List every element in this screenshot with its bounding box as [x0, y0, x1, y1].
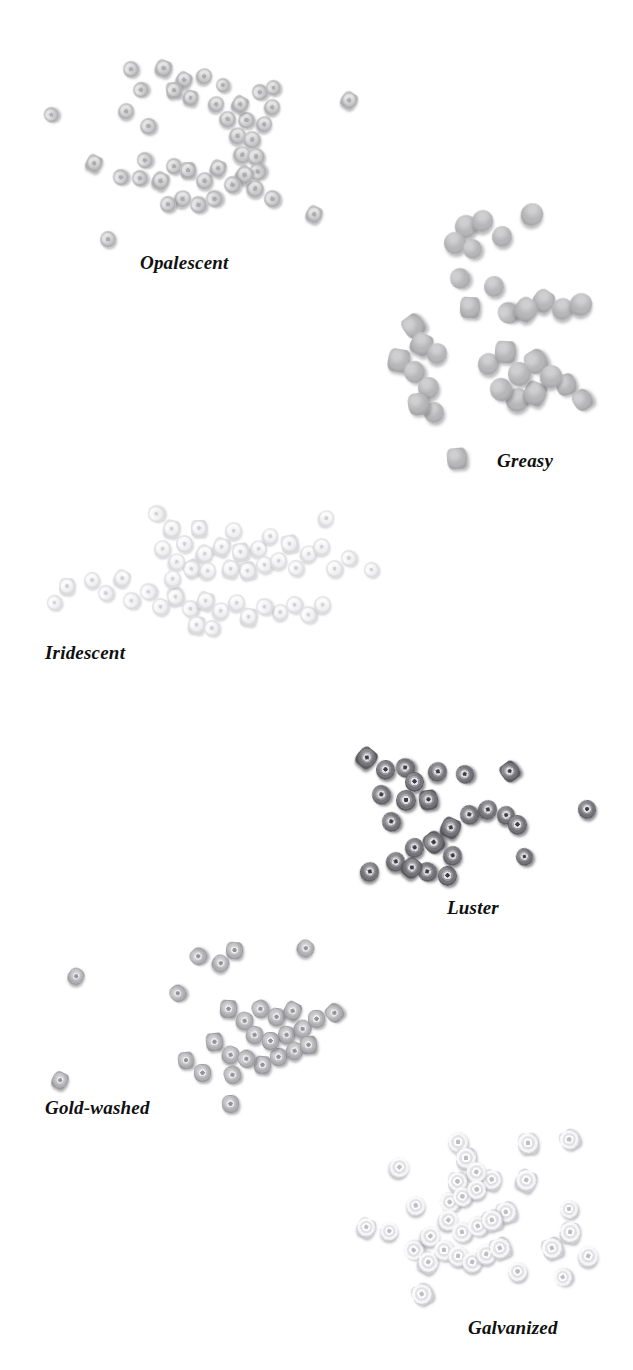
bead — [550, 1264, 576, 1290]
bead — [459, 296, 480, 318]
bead — [403, 1193, 428, 1219]
bead — [407, 392, 431, 417]
bead — [494, 340, 516, 363]
bead — [507, 1261, 528, 1283]
bead — [219, 999, 237, 1018]
bead — [385, 1153, 414, 1182]
bead — [558, 1220, 582, 1244]
bead — [180, 162, 196, 179]
bead — [405, 772, 424, 792]
bead — [177, 1051, 195, 1070]
bead — [517, 1132, 538, 1154]
cluster-label-galvanized: Galvanized — [468, 1317, 558, 1339]
cluster-label-gold-washed: Gold-washed — [45, 1097, 150, 1119]
bead — [377, 1219, 402, 1244]
bead — [221, 1094, 239, 1113]
bead — [418, 789, 440, 811]
bead — [279, 534, 299, 555]
bead — [438, 866, 457, 886]
bead — [308, 1010, 326, 1029]
bead — [205, 1032, 224, 1052]
bead — [165, 81, 183, 100]
bead — [59, 578, 76, 596]
bead — [408, 1280, 436, 1308]
bead — [354, 1215, 379, 1240]
cluster-label-opalescent: Opalescent — [140, 252, 229, 274]
bead — [262, 1032, 279, 1050]
bead — [559, 1199, 579, 1220]
bead — [231, 542, 250, 562]
bead — [299, 1035, 317, 1054]
cluster-label-iridescent: Iridescent — [45, 642, 125, 664]
cluster-label-greasy: Greasy — [497, 450, 553, 472]
cluster-label-luster: Luster — [447, 897, 499, 919]
bead — [575, 1243, 602, 1270]
bead — [225, 941, 243, 959]
bead — [446, 447, 468, 470]
bead — [512, 1167, 539, 1195]
bead — [194, 1064, 211, 1082]
bead — [191, 520, 207, 537]
bead-finish-plate: OpalescentGreasyIridescentLusterGold-was… — [0, 0, 633, 1370]
bead — [556, 1127, 583, 1154]
